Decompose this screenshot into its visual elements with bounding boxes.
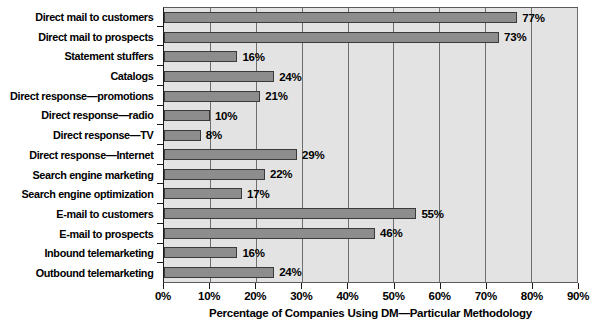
category-axis-labels: Direct mail to customers Direct mail to … [0, 7, 160, 283]
bar-value-label: 46% [380, 227, 402, 239]
bar-chart: Direct mail to customers Direct mail to … [0, 0, 597, 325]
value-tick-label: 70% [475, 290, 497, 302]
bar-value-label: 8% [206, 129, 222, 141]
value-tick [532, 283, 533, 289]
bar-row: 55% [164, 204, 577, 224]
value-tick-label: 80% [521, 290, 543, 302]
category-label: Direct response—promotions [10, 86, 160, 106]
bar-row: 10% [164, 106, 577, 126]
value-tick-label: 20% [244, 290, 266, 302]
bar [164, 32, 499, 43]
bar-value-label: 10% [215, 110, 237, 122]
value-tick-label: 30% [290, 290, 312, 302]
bar-value-label: 29% [302, 149, 324, 161]
bar-row: 8% [164, 125, 577, 145]
value-tick-label: 50% [382, 290, 404, 302]
bar-row: 73% [164, 28, 577, 48]
bar-value-label: 55% [421, 208, 443, 220]
bar [164, 149, 297, 160]
bar-row: 16% [164, 47, 577, 67]
bar [164, 51, 237, 62]
bar-row: 24% [164, 263, 577, 283]
bar-row: 17% [164, 184, 577, 204]
bar-series: 77%73%16%24%21%10%8%29%22%17%55%46%16%24… [164, 8, 577, 282]
bar [164, 91, 260, 102]
bar [164, 267, 274, 278]
bar-value-label: 73% [504, 31, 526, 43]
category-label: Direct mail to customers [10, 7, 160, 27]
bar-row: 21% [164, 86, 577, 106]
bar-value-label: 77% [522, 12, 544, 24]
value-axis-labels: 0%10%20%30%40%50%60%70%80%90% [0, 290, 597, 306]
value-tick [301, 283, 302, 289]
bar-row: 24% [164, 67, 577, 87]
bar-value-label: 21% [265, 90, 287, 102]
bar-value-label: 22% [270, 168, 292, 180]
plot-area: 77%73%16%24%21%10%8%29%22%17%55%46%16%24… [163, 7, 578, 283]
value-tick [347, 283, 348, 289]
category-label: Direct response—radio [10, 106, 160, 126]
category-label: E-mail to customers [10, 204, 160, 224]
bar-value-label: 16% [242, 247, 264, 259]
bar-row: 22% [164, 165, 577, 185]
category-label: E-mail to prospects [10, 224, 160, 244]
value-tick [255, 283, 256, 289]
bar [164, 188, 242, 199]
bar [164, 71, 274, 82]
value-tick [163, 283, 164, 289]
x-axis-title: Percentage of Companies Using DM—Particu… [163, 307, 578, 319]
bar [164, 169, 265, 180]
bar-row: 77% [164, 8, 577, 28]
category-label: Outbound telemarketing [10, 263, 160, 283]
bar [164, 228, 375, 239]
value-tick [209, 283, 210, 289]
value-axis-ticks [163, 283, 578, 289]
bar [164, 130, 201, 141]
category-label: Search engine marketing [10, 165, 160, 185]
value-tick-label: 10% [198, 290, 220, 302]
value-tick-label: 60% [429, 290, 451, 302]
bar-value-label: 24% [279, 266, 301, 278]
value-tick [440, 283, 441, 289]
bar-value-label: 24% [279, 71, 301, 83]
category-label: Search engine optimization [10, 184, 160, 204]
bar [164, 110, 210, 121]
category-label: Direct mail to prospects [10, 27, 160, 47]
value-tick-label: 0% [155, 290, 171, 302]
category-label: Direct response—TV [10, 125, 160, 145]
value-tick [578, 283, 579, 289]
category-label: Statement stuffers [10, 46, 160, 66]
bar-value-label: 16% [242, 51, 264, 63]
category-label: Inbound telemarketing [10, 244, 160, 264]
bar [164, 208, 416, 219]
value-tick [394, 283, 395, 289]
bar-row: 46% [164, 223, 577, 243]
category-label: Direct response—Internet [10, 145, 160, 165]
gridline [577, 8, 578, 282]
bar-value-label: 17% [247, 188, 269, 200]
value-tick [486, 283, 487, 289]
value-tick-label: 40% [336, 290, 358, 302]
bar-row: 16% [164, 243, 577, 263]
value-tick-label: 90% [567, 290, 589, 302]
bar-row: 29% [164, 145, 577, 165]
bar [164, 12, 517, 23]
category-label: Catalogs [10, 66, 160, 86]
bar [164, 247, 237, 258]
